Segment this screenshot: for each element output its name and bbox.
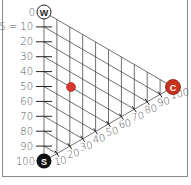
bottom-axis-label: 80: [143, 102, 158, 115]
bottom-axis-label: 10: [53, 154, 68, 167]
vertex-s: S: [37, 154, 52, 169]
bottom-axis-label: 70: [130, 110, 145, 123]
grid-line: [44, 27, 160, 95]
vertex-w: W: [37, 5, 51, 19]
left-axis-labels: 0S = 102030405060708090100: [0, 7, 35, 167]
grid-line: [44, 116, 83, 139]
vertex-w-label: W: [40, 8, 49, 18]
grid-line: [44, 146, 57, 154]
left-axis-label: 70: [20, 111, 33, 122]
bottom-axis-label: 30: [79, 139, 94, 152]
vertex-s-label: S: [41, 157, 47, 167]
bottom-axis-label: 20: [66, 147, 81, 160]
left-axis-label: 50: [20, 81, 33, 92]
grid-line: [44, 87, 109, 125]
grid-line: [44, 57, 134, 109]
left-axis-label: 40: [20, 66, 33, 77]
bottom-axis-label: 90: [156, 95, 171, 108]
left-axis-label: 80: [20, 126, 33, 137]
bottom-axis-label: 60: [118, 117, 133, 130]
ternary-diagram: 0S = 102030405060708090100 1020304050607…: [0, 0, 191, 185]
left-axis-label: 90: [20, 141, 33, 152]
vertex-c: C: [166, 80, 181, 95]
left-axis-label: S = 10: [0, 21, 33, 32]
bottom-axis-label: 40: [92, 132, 107, 145]
vertex-c-label: C: [170, 83, 177, 93]
left-axis-label: 0: [29, 7, 35, 18]
left-axis-label: 100: [16, 156, 35, 167]
data-point[interactable]: [67, 83, 76, 92]
left-axis-label: 30: [20, 51, 33, 62]
left-axis-label: 20: [20, 36, 33, 47]
ternary-grid: [44, 12, 173, 161]
bottom-axis-label: 50: [105, 125, 120, 138]
left-axis-label: 60: [20, 96, 33, 107]
